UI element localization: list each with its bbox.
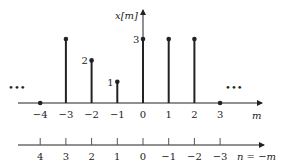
n-tick-label: −3 <box>213 151 228 162</box>
ellipsis-left: ••• <box>8 82 26 93</box>
n-tick-label: 4 <box>37 151 43 162</box>
n-tick-label: 3 <box>63 151 69 162</box>
n-tick-label: 0 <box>140 151 146 162</box>
stems: 213 <box>38 34 223 105</box>
n-tick-label: −2 <box>187 151 202 162</box>
x-axis-label: m <box>252 110 261 121</box>
stem-dot <box>141 37 146 42</box>
value-label: 3 <box>133 34 139 45</box>
m-tick-label: 1 <box>166 109 172 120</box>
n-axis-label: n = −m <box>237 151 276 162</box>
stem-dot <box>166 37 171 42</box>
ellipsis-right: ••• <box>225 82 243 93</box>
m-tick-label: 3 <box>217 109 223 120</box>
stem-dot <box>192 37 197 42</box>
lower-axis: 43210−1−2−3 n = −m <box>18 138 276 162</box>
value-label: 2 <box>82 55 88 66</box>
n-tick-label: 2 <box>88 151 94 162</box>
stem-dot <box>115 79 120 84</box>
upper-axes: 213 −4−3−2−10123 x[m] m ••• ••• <box>8 10 262 121</box>
y-axis-label: x[m] <box>115 10 138 21</box>
n-tick-label: −1 <box>161 151 176 162</box>
stem-dot <box>89 58 94 63</box>
m-tick-label: −2 <box>84 109 99 120</box>
m-tick-label: −3 <box>59 109 74 120</box>
m-tick-label: 0 <box>140 109 146 120</box>
stem-dot <box>64 37 69 42</box>
m-tick-label: −4 <box>33 109 48 120</box>
m-tick-labels: −4−3−2−10123 <box>33 109 223 120</box>
n-tick-label: 1 <box>114 151 120 162</box>
stem-dot <box>218 101 223 106</box>
m-tick-label: 2 <box>191 109 197 120</box>
n-tick-labels: 43210−1−2−3 <box>37 138 227 162</box>
stem-dot <box>38 101 43 106</box>
m-tick-label: −1 <box>110 109 125 120</box>
stem-plot: 213 −4−3−2−10123 x[m] m ••• ••• 43210−1−… <box>0 0 292 168</box>
value-label: 1 <box>107 77 113 88</box>
